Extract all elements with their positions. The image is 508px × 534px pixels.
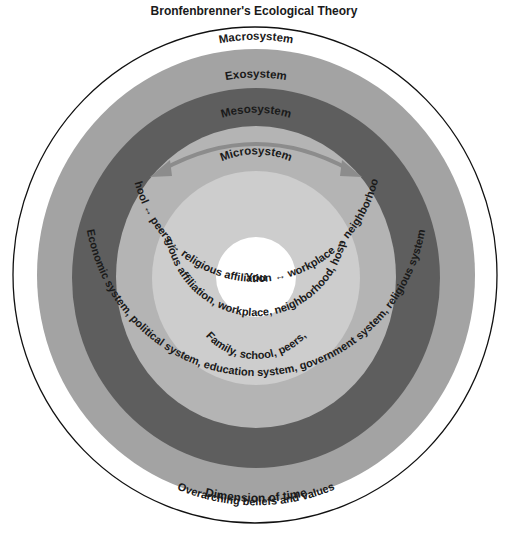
ecological-diagram: Chronosystem Macrosystem Exosystem Mesos… <box>0 0 508 534</box>
